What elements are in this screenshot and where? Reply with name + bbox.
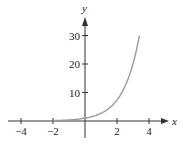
y-tick-label: 20 xyxy=(69,58,81,70)
y-axis-label: y xyxy=(81,2,87,14)
y-tick-label: 10 xyxy=(69,87,81,99)
x-axis-label: x xyxy=(171,115,177,127)
exponential-curve xyxy=(53,36,139,121)
x-tick-label: −4 xyxy=(15,125,27,137)
y-axis-arrow-icon xyxy=(82,17,88,26)
x-tick-label: 2 xyxy=(114,125,120,137)
x-tick-label: 4 xyxy=(146,125,152,137)
x-tick-label: −2 xyxy=(47,125,59,137)
axes xyxy=(8,17,169,138)
y-tick-label: 30 xyxy=(69,30,81,42)
x-axis-arrow-icon xyxy=(161,118,169,124)
exponential-chart: −4−224102030 x y xyxy=(0,0,183,152)
